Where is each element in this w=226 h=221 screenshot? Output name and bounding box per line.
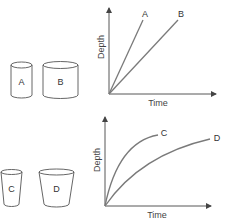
bottom-depth-time-chart: Depth Time C D xyxy=(92,117,221,220)
y-axis-label: Depth xyxy=(92,148,102,172)
series-b-line xyxy=(109,20,178,94)
container-a-label: A xyxy=(18,77,24,87)
series-a-label: A xyxy=(142,9,148,19)
y-axis-label: Depth xyxy=(96,35,106,59)
x-axis-label: Time xyxy=(147,210,167,220)
container-d-cup: D xyxy=(39,169,74,207)
container-b-cylinder: B xyxy=(43,62,78,99)
container-d-label: D xyxy=(53,184,60,194)
container-b-label: B xyxy=(57,77,63,87)
series-b-label: B xyxy=(178,9,184,19)
series-c-label: C xyxy=(161,128,168,138)
top-depth-time-chart: Depth Time A B xyxy=(96,8,216,108)
series-d-curve xyxy=(105,139,210,206)
container-c-label: C xyxy=(8,184,15,194)
container-a-cylinder: A xyxy=(11,62,32,98)
series-d-label: D xyxy=(214,133,221,143)
diagram-canvas: A B Depth Time A B C D Depth Time C xyxy=(0,0,226,221)
series-a-line xyxy=(109,20,143,94)
x-axis-label: Time xyxy=(148,98,168,108)
container-c-cup: C xyxy=(1,170,22,207)
